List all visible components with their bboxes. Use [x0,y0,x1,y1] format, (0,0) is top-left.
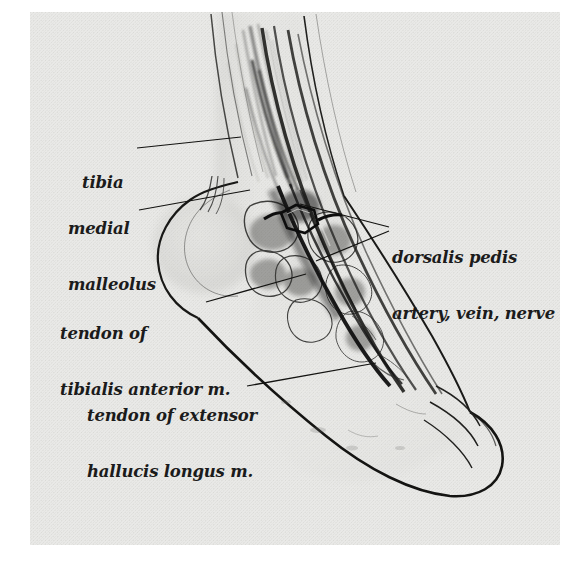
label-medial-malleolus-line-1: medial [68,220,156,239]
label-tendon-ehl-line-1: tendon of extensor [87,407,257,426]
label-dorsalis-pedis-line-1: dorsalis pedis [392,249,555,268]
label-tendon-ehl-line-2: hallucis longus m. [87,463,257,482]
label-dorsalis-pedis: dorsalis pedis artery, vein, nerve [392,211,555,361]
label-tendon-tibialis-anterior-line-1: tendon of [60,325,230,344]
anatomical-plate: tibia medial malleolus dorsalis pedis ar… [0,0,569,562]
label-dorsalis-pedis-line-2: artery, vein, nerve [392,305,555,324]
label-tendon-extensor-hallucis-longus: tendon of extensor hallucis longus m. [87,369,257,519]
